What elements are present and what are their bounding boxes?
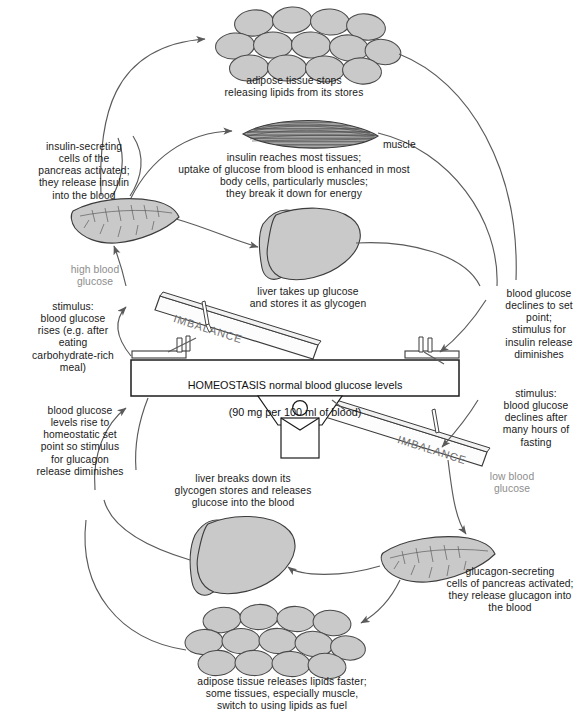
caption-glucose-rises-to-set-point: blood glucose levels rise to homeostatic… bbox=[18, 405, 142, 478]
homeostasis-bar-label: HOMEOSTASIS normal blood glucose levels … bbox=[131, 365, 459, 434]
caption-liver-breaks-down-glycogen: liver breaks down its glycogen stores an… bbox=[148, 473, 338, 509]
pancreas-top-illustration bbox=[71, 199, 179, 243]
label-muscle: muscle bbox=[383, 139, 416, 150]
caption-stimulus-glucose-rises: stimulus: blood glucose rises (e.g. afte… bbox=[16, 301, 130, 374]
adipose-tissue-top-illustration bbox=[214, 6, 402, 86]
arrow-pancreas-bottom-to-liver bbox=[288, 566, 380, 574]
caption-adipose-bottom: adipose tissue releases lipids faster; s… bbox=[140, 676, 424, 712]
line-liver-to-right-loop bbox=[356, 243, 480, 286]
homeostasis-line-1: HOMEOSTASIS normal blood glucose levels bbox=[131, 379, 459, 393]
muscle-illustration bbox=[243, 121, 378, 149]
caption-liver-takes-up-glucose: liver takes up glucose and stores it as … bbox=[227, 286, 389, 310]
caption-glucagon-secreting-pancreas: glucagon-secreting cells of pancreas act… bbox=[433, 566, 587, 615]
balance-pan-left bbox=[132, 336, 190, 358]
caption-insulin-reaches-tissues: insulin reaches most tissues; uptake of … bbox=[144, 152, 444, 201]
arrow-decline-to-setpoint bbox=[440, 300, 486, 352]
homeostasis-line-2: (90 mg per 100 ml of blood) bbox=[131, 406, 459, 420]
balance-pan-right bbox=[405, 337, 459, 358]
line-adipose-bottom-to-left-loop bbox=[85, 520, 186, 650]
caption-low-blood-glucose: low blood glucose bbox=[469, 471, 555, 495]
arrow-pancreas-to-liver-top bbox=[176, 219, 258, 247]
diagram-canvas: adipose tissue stops releasing lipids fr… bbox=[0, 0, 587, 723]
caption-stimulus-glucose-declines: stimulus: blood glucose declines after m… bbox=[487, 388, 585, 449]
arrow-low-glucose-to-pancreas-bottom bbox=[448, 460, 466, 534]
caption-insulin-secreting-pancreas: insulin-secreting cells of the pancreas … bbox=[8, 141, 160, 202]
arrow-pancreas-bottom-to-adipose bbox=[361, 580, 400, 623]
caption-adipose-top: adipose tissue stops releasing lipids fr… bbox=[180, 75, 408, 99]
liver-bottom-illustration bbox=[190, 516, 295, 595]
adipose-tissue-bottom-illustration bbox=[184, 604, 367, 681]
caption-high-blood-glucose: high blood glucose bbox=[50, 264, 140, 288]
caption-decline-to-set-point: blood glucose declines to set point; sti… bbox=[492, 288, 586, 361]
liver-top-illustration bbox=[260, 208, 361, 280]
